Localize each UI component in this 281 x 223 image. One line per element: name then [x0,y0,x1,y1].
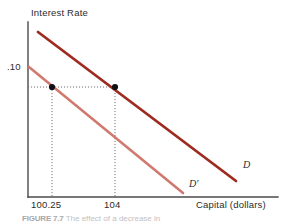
equilibrium-point-d [112,84,118,90]
equilibrium-point-d-prime [49,84,55,90]
figure-container: Interest Rate Capital (dollars) .10 100.… [0,0,281,223]
y-axis-title: Interest Rate [31,7,88,18]
figure-caption: FIGURE 7.7 The effect of a decrease in [22,214,277,223]
curve-label-d-prime: D' [189,178,198,189]
x-tick-label-104: 104 [104,199,120,210]
demand-curve-d [38,32,236,181]
figure-caption-text: The effect of a decrease in [66,214,161,223]
chart-canvas [0,0,281,223]
figure-caption-number: FIGURE 7.7 [22,214,64,223]
curve-label-d: D [243,159,250,170]
y-tick-label-0.10: .10 [7,61,21,72]
x-axis-title: Capital (dollars) [196,199,266,210]
x-tick-label-100.25: 100.25 [31,199,61,210]
